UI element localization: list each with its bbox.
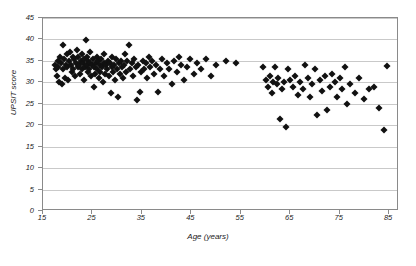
x-tick-label: 65 <box>285 213 293 222</box>
x-tick-label: 75 <box>334 213 342 222</box>
x-tick-mark <box>190 210 191 214</box>
x-axis-tick-labels: 1525354555657585 <box>0 0 416 266</box>
x-axis-title: Age (years) <box>0 232 416 241</box>
x-tick-label: 35 <box>137 213 145 222</box>
x-tick-mark <box>141 210 142 214</box>
x-tick-mark <box>388 210 389 214</box>
x-tick-mark <box>289 210 290 214</box>
x-tick-label: 45 <box>186 213 194 222</box>
scatter-chart: UPSIT score 051015202530354045 152535455… <box>0 0 416 266</box>
x-tick-mark <box>339 210 340 214</box>
x-tick-label: 25 <box>87 213 95 222</box>
x-tick-label: 55 <box>236 213 244 222</box>
x-tick-mark <box>91 210 92 214</box>
x-tick-label: 85 <box>384 213 392 222</box>
x-tick-label: 15 <box>38 213 46 222</box>
x-tick-mark <box>42 210 43 214</box>
x-tick-mark <box>240 210 241 214</box>
